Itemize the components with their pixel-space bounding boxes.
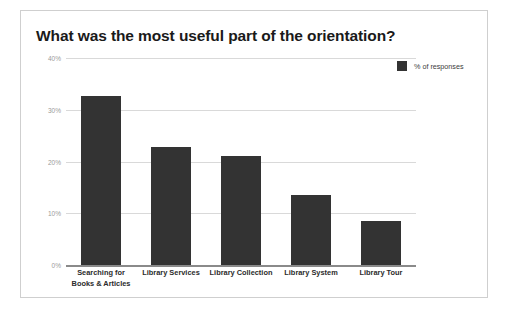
y-axis-tick-label: 20% — [48, 158, 61, 165]
plot-area: 0%10%20%30%40% — [66, 58, 416, 265]
legend-entry-label: % of responses — [414, 62, 464, 71]
x-axis-category-label: Searching for Books & Articles — [66, 268, 136, 289]
bar[interactable] — [151, 147, 192, 265]
x-axis-category-label: Library Tour — [346, 268, 416, 279]
x-axis-category-label: Library Services — [136, 268, 206, 279]
bar-series-layer — [66, 58, 416, 265]
bar[interactable] — [361, 221, 402, 265]
y-axis-tick-label: 0% — [52, 262, 61, 269]
y-axis-tick-label: 10% — [48, 210, 61, 217]
bar[interactable] — [291, 195, 332, 265]
x-axis-baseline: 0% — [66, 265, 416, 267]
bar[interactable] — [221, 156, 262, 265]
x-axis-category-label: Library Collection — [206, 268, 276, 279]
y-axis-tick-label: 30% — [48, 106, 61, 113]
bar[interactable] — [81, 96, 122, 265]
y-axis-tick-label: 40% — [48, 55, 61, 62]
chart-title: What was the most useful part of the ori… — [36, 27, 395, 45]
x-axis-category-label: Library System — [276, 268, 346, 279]
x-axis-labels: Searching for Books & ArticlesLibrary Se… — [66, 268, 416, 310]
chart-card: What was the most useful part of the ori… — [20, 10, 488, 298]
